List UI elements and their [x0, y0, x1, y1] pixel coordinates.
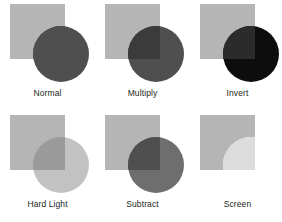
blend-cell-multiply: Multiply: [95, 0, 190, 111]
blend-cell-screen: Screen: [190, 111, 282, 222]
blend-mode-grid: NormalMultiplyInvertHard LightSubtractSc…: [0, 0, 282, 222]
blend-cell-invert: Invert: [190, 0, 282, 111]
blend-mode-label: Subtract: [95, 199, 190, 209]
blend-preview: [95, 0, 190, 88]
blend-mode-label: Hard Light: [0, 199, 95, 209]
blend-preview: [0, 0, 95, 88]
blend-preview: [95, 111, 190, 199]
blend-cell-normal: Normal: [0, 0, 95, 111]
blend-mode-label: Multiply: [95, 88, 190, 98]
blend-preview: [190, 111, 282, 199]
blend-mode-label: Invert: [190, 88, 282, 98]
blend-mode-label: Screen: [190, 199, 282, 209]
blend-preview: [0, 111, 95, 199]
blend-cell-hard-light: Hard Light: [0, 111, 95, 222]
blend-mode-label: Normal: [0, 88, 95, 98]
blend-cell-subtract: Subtract: [95, 111, 190, 222]
blend-preview: [190, 0, 282, 88]
